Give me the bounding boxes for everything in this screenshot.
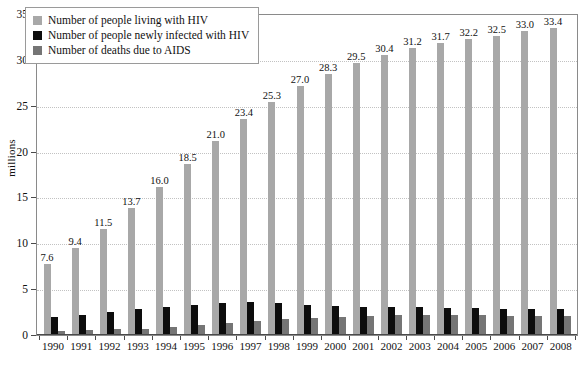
bar-group: 27.0 <box>293 15 321 334</box>
bar-value-label: 7.6 <box>40 252 53 263</box>
bar <box>360 307 367 335</box>
bar-value-label: 23.4 <box>235 107 253 118</box>
bar-value-label: 31.2 <box>403 36 421 47</box>
bar-value-label: 29.5 <box>347 51 365 62</box>
bar: 32.5 <box>493 36 500 334</box>
x-tick-mark <box>180 336 181 340</box>
bar: 27.0 <box>297 86 304 334</box>
x-tick-mark <box>208 336 209 340</box>
x-tick-mark <box>124 336 125 340</box>
bar <box>528 309 535 334</box>
bar <box>564 316 571 334</box>
y-tick-label: 5 <box>22 283 28 295</box>
legend-item: Number of deaths due to AIDS <box>33 43 249 58</box>
bar <box>395 315 402 334</box>
bar-value-label: 11.5 <box>94 217 112 228</box>
x-tick-label: 2004 <box>434 340 462 352</box>
x-tick-mark <box>406 336 407 340</box>
bar: 33.4 <box>550 28 557 334</box>
bar-value-label: 27.0 <box>291 74 309 85</box>
bar <box>51 317 58 334</box>
bar-group: 32.2 <box>462 15 490 334</box>
x-tick-mark <box>39 336 40 340</box>
bar: 30.4 <box>381 55 388 334</box>
x-tick-label: 1992 <box>95 340 123 352</box>
bar <box>107 312 114 334</box>
x-tick-mark <box>95 336 96 340</box>
bar <box>170 327 177 334</box>
bar-group: 31.2 <box>405 15 433 334</box>
x-tick-label: 2001 <box>349 340 377 352</box>
x-tick-mark <box>265 336 266 340</box>
bar <box>423 315 430 334</box>
bar-value-label: 28.3 <box>319 62 337 73</box>
x-tick-mark <box>575 336 576 340</box>
x-tick-label: 2006 <box>490 340 518 352</box>
x-tick-label: 2002 <box>377 340 405 352</box>
x-tick-mark <box>321 336 322 340</box>
x-tick-label: 1998 <box>265 340 293 352</box>
bar <box>163 307 170 335</box>
x-tick-label: 1996 <box>208 340 236 352</box>
x-tick-label: 2008 <box>547 340 575 352</box>
bar: 11.5 <box>100 229 107 334</box>
x-tick-mark <box>462 336 463 340</box>
bar-group: 29.5 <box>349 15 377 334</box>
bar-group: 31.7 <box>434 15 462 334</box>
bar: 21.0 <box>212 141 219 334</box>
bar: 16.0 <box>156 187 163 334</box>
x-tick-label: 2003 <box>406 340 434 352</box>
bar <box>247 302 254 334</box>
bar: 25.3 <box>268 102 275 334</box>
bar-group: 33.0 <box>518 15 546 334</box>
bar: 31.7 <box>437 43 444 334</box>
x-tick-mark <box>67 336 68 340</box>
y-tick-label: 20 <box>17 146 29 158</box>
chart-legend: Number of people living with HIVNumber o… <box>25 7 259 64</box>
bar: 23.4 <box>240 119 247 334</box>
bar-value-label: 13.7 <box>122 196 140 207</box>
x-tick-mark <box>349 336 350 340</box>
bar <box>226 323 233 334</box>
x-tick-mark <box>236 336 237 340</box>
bar <box>388 307 395 334</box>
bar-group: 32.5 <box>490 15 518 334</box>
bar-group: 28.3 <box>321 15 349 334</box>
y-tick-label: 25 <box>17 100 29 112</box>
bar <box>500 309 507 334</box>
y-tick-label: 15 <box>17 191 29 203</box>
x-tick-mark <box>434 336 435 340</box>
bar <box>191 305 198 334</box>
bar <box>254 321 261 334</box>
bar <box>275 303 282 334</box>
bar <box>304 305 311 334</box>
legend-swatch-icon <box>33 31 42 40</box>
bar-group: 25.3 <box>265 15 293 334</box>
x-tick-label: 1997 <box>236 340 264 352</box>
bar <box>339 317 346 334</box>
bar <box>472 308 479 334</box>
bar-group: 30.4 <box>377 15 405 334</box>
y-tick-label: 10 <box>17 237 29 249</box>
bar-value-label: 16.0 <box>150 175 168 186</box>
x-tick-mark <box>547 336 548 340</box>
x-tick-label: 1990 <box>39 340 67 352</box>
bar-value-label: 30.4 <box>375 43 393 54</box>
bar <box>367 316 374 334</box>
x-axis-line <box>37 334 577 335</box>
x-tick-label: 1994 <box>152 340 180 352</box>
x-tick-label: 1993 <box>124 340 152 352</box>
legend-item-label: Number of people living with HIV <box>48 13 208 28</box>
bar: 33.0 <box>521 31 528 334</box>
x-tick-mark <box>378 336 379 340</box>
legend-item: Number of people newly infected with HIV <box>33 28 249 43</box>
bar: 32.2 <box>465 39 472 334</box>
legend-item-label: Number of people newly infected with HIV <box>48 28 249 43</box>
bar: 13.7 <box>128 208 135 334</box>
hiv-aids-bar-chart: millions 05101520253035 7.69.411.513.716… <box>0 0 587 368</box>
legend-item-label: Number of deaths due to AIDS <box>48 43 191 58</box>
bar: 7.6 <box>44 264 51 334</box>
bar: 18.5 <box>184 164 191 334</box>
x-tick-mark <box>293 336 294 340</box>
bar: 28.3 <box>325 74 332 334</box>
